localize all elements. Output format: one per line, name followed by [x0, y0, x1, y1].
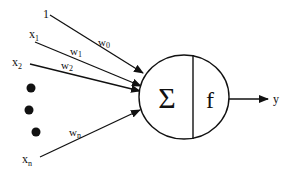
activation-symbol: f	[206, 87, 214, 113]
weight-label-w0: w0	[98, 36, 110, 50]
weight-label-w1: w1	[70, 45, 82, 59]
weight-label-wn: wn	[69, 126, 81, 140]
ellipsis-dot	[25, 106, 34, 115]
weight-label-w2: w2	[61, 59, 73, 73]
output-label: y	[273, 92, 279, 106]
ellipsis-dot	[27, 84, 36, 93]
diagram-canvas: 1 x1 x2 xn w0 w1 w2 wn Σ f y	[0, 0, 296, 172]
neuron-node	[139, 55, 229, 139]
perceptron-diagram: 1 x1 x2 xn w0 w1 w2 wn Σ f y	[0, 0, 296, 172]
input-label-x2: x2	[12, 55, 22, 71]
edge-x2	[30, 64, 140, 91]
input-label-x1: x1	[29, 27, 39, 43]
input-label-bias: 1	[43, 7, 49, 21]
input-label-xn: xn	[22, 152, 32, 168]
summation-symbol: Σ	[158, 81, 175, 114]
edge-xn	[40, 110, 140, 157]
ellipsis-dot	[32, 128, 41, 137]
edge-x1	[35, 42, 141, 86]
